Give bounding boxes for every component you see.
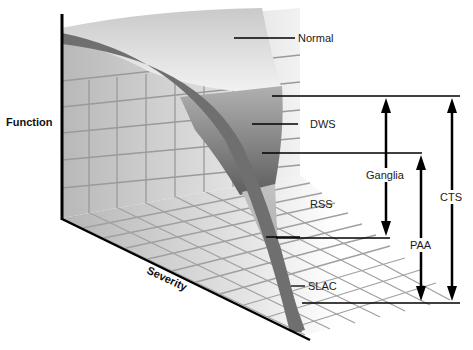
- range-label-cts: CTS: [440, 191, 462, 203]
- range-label-paa: PAA: [410, 239, 432, 251]
- y-axis-label: Function: [6, 116, 53, 128]
- zone-label-rss: RSS: [310, 198, 333, 210]
- severity-function-diagram: Function Severity Normal DWS RSS SLAC Ga…: [0, 0, 473, 350]
- zone-label-slac: SLAC: [308, 280, 337, 292]
- zone-label-normal: Normal: [298, 32, 333, 44]
- range-label-ganglia: Ganglia: [366, 169, 405, 181]
- zone-label-dws: DWS: [310, 118, 336, 130]
